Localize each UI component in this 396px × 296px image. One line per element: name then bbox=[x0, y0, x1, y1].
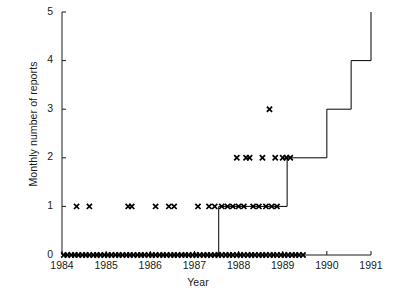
y-tick-label: 1 bbox=[31, 199, 53, 211]
chart-figure: Monthly number of reports Year 198419851… bbox=[0, 0, 396, 296]
y-tick-label: 4 bbox=[31, 53, 53, 65]
x-marker bbox=[87, 204, 92, 209]
y-tick-marks bbox=[62, 12, 66, 255]
step-polyline bbox=[62, 12, 371, 255]
x-tick-label: 1987 bbox=[174, 259, 214, 271]
chart-canvas bbox=[0, 0, 396, 296]
y-tick-label: 0 bbox=[31, 248, 53, 260]
y-tick-label: 3 bbox=[31, 102, 53, 114]
x-tick-label: 1986 bbox=[130, 259, 170, 271]
data-markers bbox=[61, 107, 305, 258]
x-marker bbox=[247, 155, 252, 160]
x-tick-label: 1985 bbox=[86, 259, 126, 271]
x-tick-label: 1988 bbox=[219, 259, 259, 271]
axis-lines bbox=[62, 12, 371, 255]
x-marker bbox=[195, 204, 200, 209]
x-marker bbox=[172, 204, 177, 209]
x-marker bbox=[166, 204, 171, 209]
x-tick-label: 1989 bbox=[263, 259, 303, 271]
step-line bbox=[62, 12, 371, 255]
x-marker bbox=[153, 204, 158, 209]
x-marker bbox=[206, 204, 211, 209]
x-tick-label: 1984 bbox=[42, 259, 82, 271]
x-marker bbox=[273, 155, 278, 160]
x-tick-label: 1991 bbox=[351, 259, 391, 271]
x-marker bbox=[129, 204, 134, 209]
x-marker bbox=[234, 155, 239, 160]
x-marker bbox=[74, 204, 79, 209]
x-marker bbox=[267, 107, 272, 112]
x-marker bbox=[212, 204, 217, 209]
x-tick-label: 1990 bbox=[307, 259, 347, 271]
x-marker bbox=[260, 155, 265, 160]
y-tick-label: 5 bbox=[31, 5, 53, 17]
x-axis-label: Year bbox=[0, 276, 396, 288]
y-tick-label: 2 bbox=[31, 150, 53, 162]
